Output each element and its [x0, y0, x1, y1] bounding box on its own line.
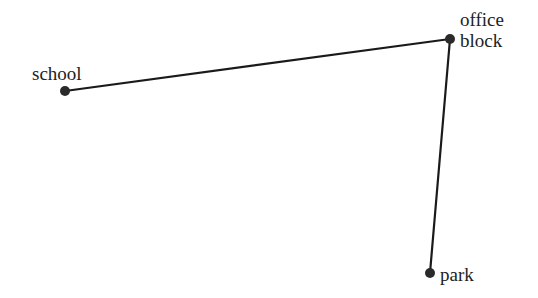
park-point-icon: [425, 268, 435, 278]
office-block-point-icon: [445, 34, 455, 44]
park-label: park: [440, 264, 474, 285]
office-block-label: office block: [460, 9, 504, 51]
school-point-icon: [60, 86, 70, 96]
office-block-label-line1: office: [460, 9, 504, 30]
route-diagram: school office block park: [0, 0, 538, 298]
route-diagram-canvas: [0, 0, 538, 298]
segment-school-to-office-block: [65, 39, 450, 91]
segment-office-block-to-park: [430, 39, 450, 273]
office-block-label-line2: block: [460, 30, 504, 51]
school-label: school: [32, 63, 82, 84]
